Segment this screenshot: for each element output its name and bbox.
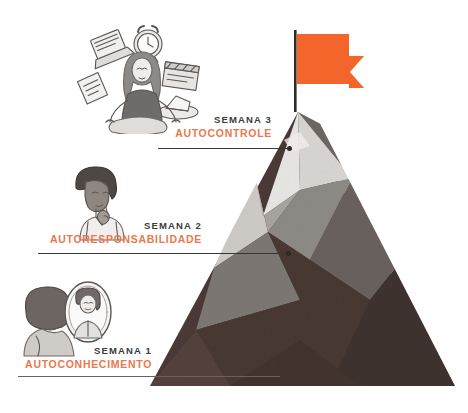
leader-dot-week-3: [287, 146, 292, 151]
leader-dot-week-2: [286, 251, 291, 256]
mountain-journey-diagram: SEMANA 3 AUTOCONTROLE SEMANA 2 AUTORESPO…: [0, 0, 468, 413]
flag-banner: [297, 34, 364, 88]
flag-pole: [294, 30, 297, 112]
week-label-2: SEMANA 2: [10, 220, 202, 232]
peak-snow-right: [298, 112, 352, 190]
week-label-1: SEMANA 1: [0, 345, 152, 357]
papers-sketch: [77, 72, 109, 105]
clapperboard-sketch: [162, 62, 199, 90]
topic-label-3: AUTOCONTROLE: [120, 127, 272, 140]
flag-icon: [294, 30, 364, 112]
week-label-3: SEMANA 3: [120, 114, 272, 126]
topic-label-2: AUTORESPONSABILIDADE: [10, 233, 202, 246]
leader-line-week-1: [18, 376, 280, 377]
step-label-week-1: SEMANA 1 AUTOCONHECIMENTO: [0, 345, 152, 371]
leader-line-week-3: [158, 148, 289, 149]
leader-line-week-2: [38, 253, 288, 254]
topic-label-1: AUTOCONHECIMENTO: [0, 358, 152, 371]
step-label-week-3: SEMANA 3 AUTOCONTROLE: [120, 114, 272, 140]
step-label-week-2: SEMANA 2 AUTORESPONSABILIDADE: [10, 220, 202, 246]
